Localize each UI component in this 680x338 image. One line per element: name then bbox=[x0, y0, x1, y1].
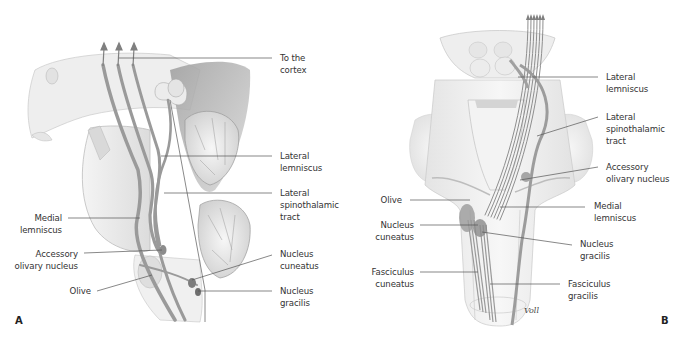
label-to-the-cortex: To the cortex bbox=[280, 52, 307, 76]
label-fasciculus-cuneatus-b: Fasciculus cuneatus bbox=[372, 266, 415, 290]
label-nucleus-cuneatus: Nucleus cuneatus bbox=[280, 248, 319, 272]
label-olive-b: Olive bbox=[381, 194, 402, 206]
label-fasciculus-gracilis-b: Fasciculus gracilis bbox=[568, 278, 611, 302]
artist-signature: Voll bbox=[524, 306, 539, 315]
panel-letter-b: B bbox=[661, 315, 669, 326]
panel-letter-a: A bbox=[15, 315, 23, 326]
label-lateral-spinothalamic-tract: Lateral spinothalamic tract bbox=[280, 187, 339, 223]
panel-a-sagittal-view: To the cortex Lateral lemniscus Lateral … bbox=[0, 0, 340, 338]
panel-b-dorsal-view: Lateral lemniscus Lateral spinothalamic … bbox=[340, 0, 680, 338]
label-accessory-olivary-nucleus-b: Accessory olivary nucleus bbox=[606, 161, 669, 185]
label-nucleus-cuneatus-b: Nucleus cuneatus bbox=[375, 219, 414, 243]
label-nucleus-gracilis: Nucleus gracilis bbox=[280, 285, 314, 309]
label-lateral-spinothalamic-tract-b: Lateral spinothalamic tract bbox=[606, 111, 665, 147]
label-medial-lemniscus-b: Medial lemniscus bbox=[594, 200, 636, 224]
label-medial-lemniscus: Medial lemniscus bbox=[20, 212, 62, 236]
label-lateral-lemniscus: Lateral lemniscus bbox=[280, 150, 322, 174]
label-lateral-lemniscus-b: Lateral lemniscus bbox=[606, 71, 648, 95]
label-accessory-olivary-nucleus: Accessory olivary nucleus bbox=[15, 248, 78, 272]
label-olive: Olive bbox=[70, 285, 91, 297]
label-nucleus-gracilis-b: Nucleus gracilis bbox=[580, 238, 614, 262]
